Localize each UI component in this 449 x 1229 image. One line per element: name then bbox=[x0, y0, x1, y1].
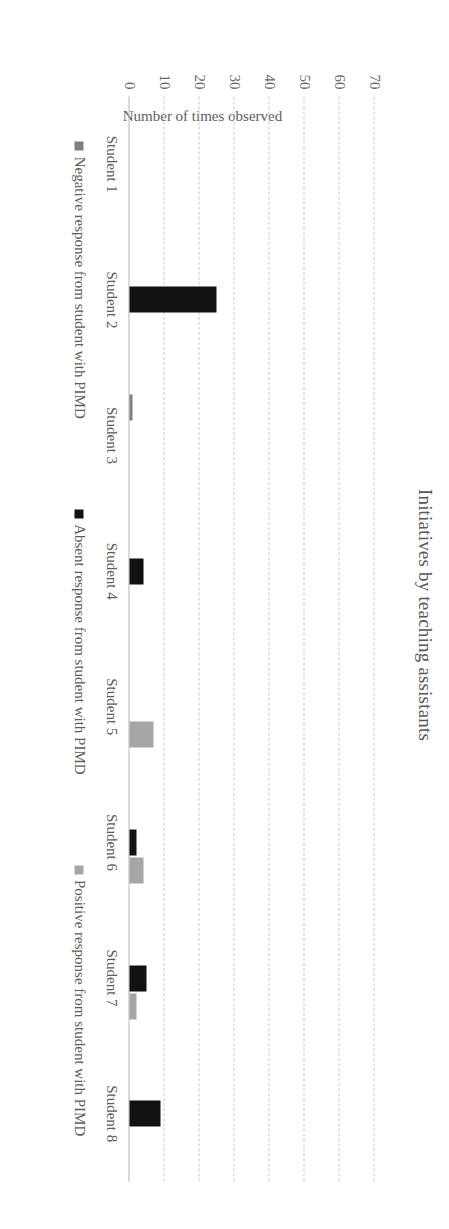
bar-stack bbox=[129, 774, 391, 910]
bar-stack bbox=[129, 367, 391, 503]
legend-swatch-negative bbox=[74, 141, 83, 150]
y-axis-tick-label: 10 bbox=[155, 29, 172, 89]
bar-stack bbox=[129, 910, 391, 1046]
x-axis-tick-label: Student 5 bbox=[102, 639, 119, 775]
bar-stack bbox=[129, 1045, 391, 1181]
bar-group: Student 8 bbox=[129, 1045, 391, 1181]
legend-swatch-absent bbox=[74, 509, 83, 518]
y-axis-tick-label: 40 bbox=[260, 29, 277, 89]
bar-stack bbox=[129, 96, 391, 232]
legend-label: Positive response from student with PIMD bbox=[70, 880, 87, 1136]
legend-item[interactable]: Negative response from student with PIMD bbox=[70, 141, 87, 418]
bar-group: Student 2 bbox=[129, 232, 391, 368]
bar-negative[interactable] bbox=[129, 394, 132, 420]
bar-absent[interactable] bbox=[129, 829, 136, 855]
y-axis-tick-label: 60 bbox=[330, 29, 347, 89]
y-axis-tick-label: 70 bbox=[365, 29, 382, 89]
bar-stack bbox=[129, 639, 391, 775]
bar-stack bbox=[129, 232, 391, 368]
bar-positive[interactable] bbox=[129, 857, 143, 883]
x-axis-tick-label: Student 4 bbox=[102, 503, 119, 639]
x-axis-tick-label: Student 8 bbox=[102, 1045, 119, 1181]
x-axis-tick-label: Student 7 bbox=[102, 910, 119, 1046]
y-axis-tick-label: 20 bbox=[190, 29, 207, 89]
chart-title: Initiatives by teaching assistants bbox=[413, 0, 435, 1229]
x-axis-tick-label: Student 3 bbox=[102, 367, 119, 503]
bar-absent[interactable] bbox=[129, 1100, 160, 1126]
x-axis-tick-label: Student 2 bbox=[102, 232, 119, 368]
legend-label: Absent response from student with PIMD bbox=[70, 524, 87, 774]
bar-group: Student 4 bbox=[129, 503, 391, 639]
bar-absent[interactable] bbox=[129, 965, 146, 991]
plot-wrapper: Number of times observed 010203040506070… bbox=[129, 96, 391, 1181]
bar-group: Student 1 bbox=[129, 96, 391, 232]
bar-stack bbox=[129, 503, 391, 639]
chart-stage: Initiatives by teaching assistants Numbe… bbox=[0, 0, 449, 1229]
legend-swatch-positive bbox=[74, 865, 83, 874]
chart-page: Initiatives by teaching assistants Numbe… bbox=[0, 0, 449, 1229]
x-axis-tick-label: Student 1 bbox=[102, 96, 119, 232]
bar-group: Student 3 bbox=[129, 367, 391, 503]
legend-item[interactable]: Absent response from student with PIMD bbox=[70, 509, 87, 774]
plot-area: 010203040506070 Student 1Student 2Studen… bbox=[129, 96, 391, 1181]
bar-group: Student 5 bbox=[129, 639, 391, 775]
bar-group: Student 7 bbox=[129, 910, 391, 1046]
bar-absent[interactable] bbox=[129, 286, 216, 312]
bar-groups: Student 1Student 2Student 3Student 4Stud… bbox=[129, 96, 391, 1181]
y-axis-tick-label: 50 bbox=[295, 29, 312, 89]
legend-item[interactable]: Positive response from student with PIMD bbox=[70, 865, 87, 1136]
bar-group: Student 6 bbox=[129, 774, 391, 910]
bar-absent[interactable] bbox=[129, 558, 143, 584]
chart-legend: Negative response from student with PIMD… bbox=[70, 96, 87, 1181]
x-axis-tick-label: Student 6 bbox=[102, 774, 119, 910]
y-axis-tick-label: 30 bbox=[225, 29, 242, 89]
bar-positive[interactable] bbox=[129, 993, 136, 1019]
legend-label: Negative response from student with PIMD bbox=[70, 156, 87, 418]
bar-positive[interactable] bbox=[129, 721, 153, 747]
y-axis-tick-label: 0 bbox=[121, 29, 138, 89]
